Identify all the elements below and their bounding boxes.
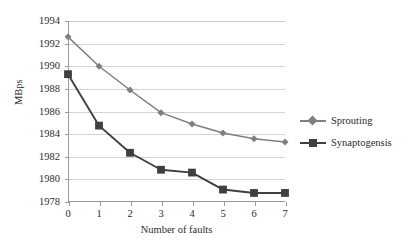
y-axis-title: MBps — [13, 94, 24, 105]
y-axis-title-text: MBps — [13, 79, 24, 105]
legend-item-synaptogensis[interactable]: Synaptogensis — [300, 132, 408, 154]
legend-label-sprouting: Sprouting — [331, 115, 372, 127]
x-axis-tick-label: 3 — [151, 208, 171, 219]
x-axis-tick-label: 4 — [182, 208, 202, 219]
x-axis-tick-label: 0 — [58, 208, 78, 219]
x-axis-tick-label: 5 — [213, 208, 233, 219]
legend-marker-diamond-icon — [300, 115, 326, 127]
x-axis-tick-label: 6 — [244, 208, 264, 219]
x-axis-tick-label: 1 — [89, 208, 109, 219]
x-axis-title: Number of faults — [68, 224, 285, 235]
x-axis-tick-label: 2 — [120, 208, 140, 219]
chart-legend: Sprouting Synaptogensis — [300, 110, 408, 154]
x-axis-tick-label: 7 — [275, 208, 295, 219]
legend-marker-square-icon — [300, 137, 326, 149]
chart-container: 197819801982198419861988199019921994 012… — [0, 0, 409, 248]
legend-item-sprouting[interactable]: Sprouting — [300, 110, 408, 132]
legend-label-synaptogensis: Synaptogensis — [331, 137, 392, 149]
